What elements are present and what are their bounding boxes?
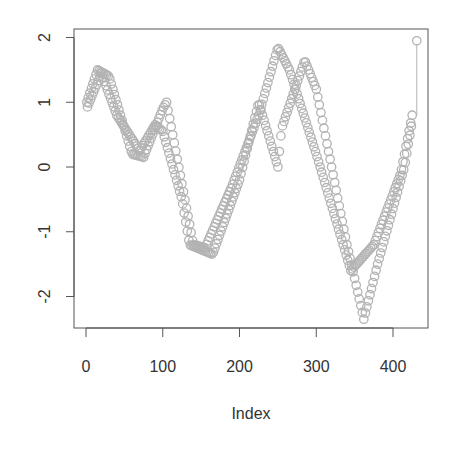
y-tick-label: -1 <box>36 225 53 239</box>
y-tick-label: 1 <box>36 98 53 107</box>
data-points <box>83 45 417 324</box>
x-axis-title: Index <box>231 405 270 422</box>
x-tick-label: 400 <box>380 358 407 375</box>
y-tick-label: 2 <box>36 33 53 42</box>
x-axis: 0100200300400 <box>82 328 407 375</box>
y-tick-label: -2 <box>36 289 53 303</box>
x-tick-label: 200 <box>226 358 253 375</box>
index-plot: -2-1012 0100200300400 Index <box>0 0 451 450</box>
y-tick-label: 0 <box>36 162 53 171</box>
y-axis: -2-1012 <box>36 33 74 304</box>
x-tick-label: 0 <box>82 358 91 375</box>
x-tick-label: 300 <box>303 358 330 375</box>
outlier-annotation <box>413 37 421 116</box>
x-tick-label: 100 <box>149 358 176 375</box>
plot-frame <box>74 29 428 328</box>
